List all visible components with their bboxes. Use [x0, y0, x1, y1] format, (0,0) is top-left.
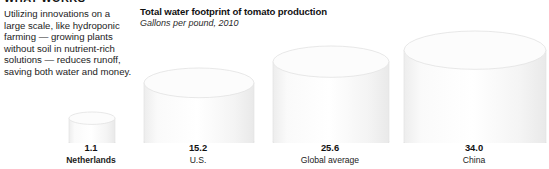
- cylinder-bar: [272, 45, 390, 143]
- infographic-panel: WHAT WORKS Utilizing innovations on a la…: [0, 0, 549, 169]
- bar-category-label: U.S.: [128, 155, 268, 166]
- cylinder-bar: [403, 30, 547, 143]
- bar-value-label: 34.0: [404, 142, 544, 153]
- bar-value-label: 15.2: [128, 142, 268, 153]
- bar-caption: 25.6Global average: [260, 142, 400, 166]
- bar-category-label: China: [404, 155, 544, 166]
- bar-category-label: Global average: [260, 155, 400, 166]
- bar-caption: 15.2U.S.: [128, 142, 268, 166]
- cylinder-chart: 1.1Netherlands15.2U.S.25.6Global average…: [0, 0, 549, 169]
- bar-caption: 34.0China: [404, 142, 544, 166]
- bar-value-label: 25.6: [260, 142, 400, 153]
- cylinder-bar: [68, 111, 116, 143]
- cylinder-bar: [143, 67, 255, 143]
